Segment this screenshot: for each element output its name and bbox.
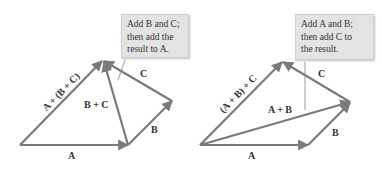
vector-b-left xyxy=(128,101,172,145)
label-a-plus-b: A + B xyxy=(268,104,292,115)
callout-right-line2: then add C to xyxy=(301,31,368,44)
label-b-plus-c: B + C xyxy=(84,99,109,110)
label-c-right: C xyxy=(318,68,325,79)
callout-right: Add A and B; then add C to the result. xyxy=(295,14,374,60)
vector-c-right xyxy=(283,62,350,102)
label-a-left: A xyxy=(68,150,75,161)
label-b-right: B xyxy=(332,127,339,138)
label-b-left: B xyxy=(151,124,158,135)
callout-right-line1: Add A and B; xyxy=(301,18,368,31)
callout-right-line3: the result. xyxy=(301,43,368,56)
vector-b-right xyxy=(308,103,350,145)
callout-left-line2: then add the xyxy=(127,31,183,44)
callout-left-line1: Add B and C; xyxy=(127,18,183,31)
callout-left: Add B and C; then add the result to A. xyxy=(121,14,189,58)
label-a-right: A xyxy=(248,150,255,161)
label-c-left: C xyxy=(140,68,147,79)
callout-left-line3: result to A. xyxy=(127,43,183,56)
